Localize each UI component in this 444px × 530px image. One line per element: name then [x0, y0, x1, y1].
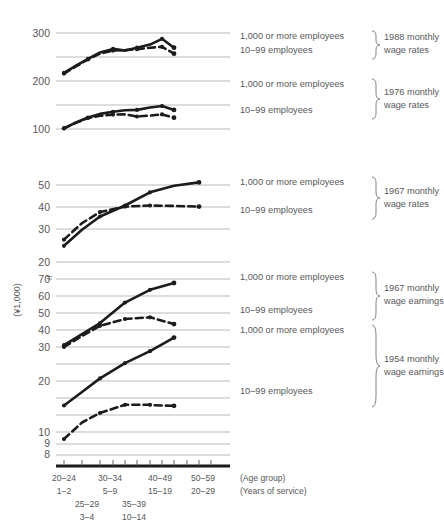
- ytick-70: 70: [38, 273, 50, 285]
- xtick-age-20-24: 20–24: [52, 473, 76, 483]
- xtick-age-30-34: 30–34: [98, 473, 122, 483]
- group-label-1967e-line1: 1967 monthly: [384, 283, 440, 293]
- group-label-1976-line2: wage rates: [383, 100, 429, 110]
- series-1967earn-small: [62, 315, 177, 349]
- xtick-svc-3-4: 3–4: [80, 512, 95, 522]
- series-1988-small: [62, 45, 177, 76]
- series-1967rates-large: [62, 180, 202, 248]
- series-1967rates-small: [62, 203, 202, 241]
- legend-1976: 1,000 or more employees 10–99 employees …: [240, 79, 440, 119]
- group-label-1976-line1: 1976 monthly: [384, 87, 440, 97]
- ytick-30: 30: [38, 341, 50, 353]
- ytick-60: 60: [38, 290, 50, 302]
- legend-1967e-large: 1,000 or more employees: [240, 272, 345, 282]
- xtick-age-50-59: 50–59: [191, 473, 215, 483]
- legend-1967e-small: 10–99 employees: [240, 305, 313, 315]
- ytick-8: 8: [44, 448, 50, 460]
- panel-top-ytick-labels: 300 200 100: [32, 27, 50, 135]
- xtick-svc-15-19: 15–19: [148, 486, 172, 496]
- xtick-svc-1-2: 1–2: [57, 486, 72, 496]
- x-axis: [56, 460, 230, 466]
- xaxis-caption-age: (Age group): [240, 473, 286, 483]
- xtick-labels-age-row1: 20–24 30–34 40–49 50–59 (Age group): [52, 473, 285, 483]
- panel-bottom-ytick-labels: 70 60 50 40 30 20 10 9 8: [38, 273, 50, 460]
- group-label-1967r-line1: 1967 monthly: [384, 186, 440, 196]
- series-1976-large: [62, 104, 177, 131]
- legend-1967-rates: 1,000 or more employees 10–99 employees …: [240, 177, 440, 219]
- legend-1967r-small: 10–99 employees: [240, 205, 313, 215]
- group-label-1967r-line2: wage rates: [383, 199, 429, 209]
- legend-1967r-large: 1,000 or more employees: [240, 177, 345, 187]
- xtick-svc-20-29: 20–29: [191, 486, 215, 496]
- group-label-1954e-line2: wage earnings: [383, 367, 444, 377]
- legend-1988: 1,000 or more employees 10–99 employees …: [240, 31, 440, 59]
- xtick-svc-5-9: 5–9: [103, 486, 118, 496]
- xtick-labels-service-row1: 1–2 5–9 15–19 20–29 (Years of service): [57, 486, 307, 496]
- ytick-30: 30: [38, 223, 50, 235]
- xtick-labels-service-row2: 3–4 10–14: [80, 512, 146, 522]
- series-1976-small: [62, 112, 177, 130]
- legend-1954e-large: 1,000 or more employees: [240, 325, 345, 335]
- ytick-50: 50: [38, 307, 50, 319]
- group-label-1967e-line2: wage earnings: [383, 296, 444, 306]
- ytick-300: 300: [32, 27, 50, 39]
- legend-1976-large: 1,000 or more employees: [240, 79, 345, 89]
- chart-canvas: 300 200 100: [0, 0, 444, 530]
- series-1954earn-small: [62, 403, 177, 441]
- wage-curve-figure: 300 200 100: [0, 0, 444, 530]
- ytick-40: 40: [38, 324, 50, 336]
- xtick-svc-10-14: 10–14: [122, 512, 146, 522]
- ytick-20-break: 20: [38, 256, 50, 268]
- ytick-50: 50: [38, 179, 50, 191]
- legend-1988-small: 10–99 employees: [240, 45, 313, 55]
- ytick-100: 100: [32, 123, 50, 135]
- legend-1967-earnings: 1,000 or more employees 10–99 employees …: [240, 272, 444, 320]
- group-label-1988-line1: 1988 monthly: [384, 32, 440, 42]
- xtick-age-25-29: 25–29: [75, 499, 99, 509]
- xtick-age-35-39: 35–39: [122, 499, 146, 509]
- legend-1988-large: 1,000 or more employees: [240, 31, 345, 41]
- panel-middle-ytick-labels: 50 40 30 20: [38, 179, 50, 268]
- series-1988-large: [62, 37, 177, 75]
- xtick-labels-age-row2: 25–29 35–39: [75, 499, 146, 509]
- ytick-200: 200: [32, 75, 50, 87]
- group-label-1954e-line1: 1954 monthly: [384, 354, 440, 364]
- legend-1976-small: 10–99 employees: [240, 105, 313, 115]
- xaxis-caption-service: (Years of service): [240, 486, 307, 496]
- y-axis-unit-label: (¥1,000): [12, 283, 22, 317]
- ytick-40: 40: [38, 201, 50, 213]
- legend-1954-earnings: 1,000 or more employees 10–99 employees …: [240, 325, 444, 407]
- panel-bottom-gridlines: [56, 279, 230, 455]
- group-label-1988-line2: wage rates: [383, 45, 429, 55]
- series-1954earn-large: [62, 335, 177, 407]
- legend-1954e-small: 10–99 employees: [240, 386, 313, 396]
- ytick-20: 20: [38, 375, 50, 387]
- xtick-age-40-49: 40–49: [148, 473, 172, 483]
